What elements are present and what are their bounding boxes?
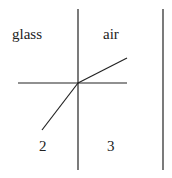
label-glass: glass [12,27,42,42]
refraction-diagram: glass air 2 3 [0,0,172,178]
incident-ray [42,83,78,130]
label-air: air [103,27,119,42]
refracted-ray [78,58,127,83]
label-region-3: 3 [107,139,115,154]
label-region-2: 2 [39,139,47,154]
